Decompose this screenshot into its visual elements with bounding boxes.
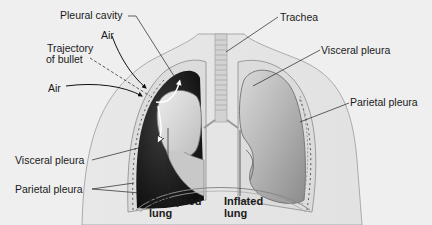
label-collapsed-lung-line1: Collapsed bbox=[149, 195, 202, 207]
label-parietal-pleura-left: Parietal pleura bbox=[15, 184, 83, 195]
label-trajectory-line2: of bullet bbox=[46, 54, 83, 65]
label-visceral-pleura-right: Visceral pleura bbox=[321, 45, 390, 56]
label-visceral-pleura-left: Visceral pleura bbox=[15, 155, 84, 166]
label-collapsed-lung-line2: lung bbox=[149, 207, 172, 219]
label-air-left: Air bbox=[48, 83, 61, 94]
label-parietal-pleura-right: Parietal pleura bbox=[350, 97, 418, 108]
label-inflated-lung-line2: lung bbox=[224, 207, 247, 219]
pneumothorax-diagram: Pleural cavity Air Trajectory of bullet … bbox=[0, 0, 432, 225]
label-trachea: Trachea bbox=[280, 12, 318, 23]
label-inflated-lung-line1: Inflated bbox=[224, 195, 263, 207]
label-pleural-cavity: Pleural cavity bbox=[60, 10, 122, 21]
label-air-top: Air bbox=[101, 30, 114, 41]
